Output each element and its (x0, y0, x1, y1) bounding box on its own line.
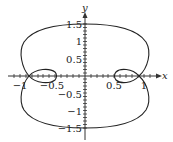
y-axis: y (81, 2, 88, 140)
y-tick-label: −1 (67, 106, 82, 117)
x-axis-label: x (162, 70, 168, 81)
y-tick-label: 1 (76, 36, 82, 47)
y-axis-label: y (81, 2, 88, 13)
plot: x y −1 −0.5 0.5 1 (0, 0, 173, 142)
y-tick-label: −0.5 (58, 89, 82, 100)
y-tick-label: 0.5 (66, 54, 82, 65)
